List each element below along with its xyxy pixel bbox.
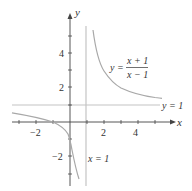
y-axis-arrow-icon (68, 13, 73, 19)
x-tick-label-4: 4 (133, 127, 138, 138)
vertical-asymptote-label: x = 1 (87, 153, 109, 164)
function-label-y: y = (109, 62, 124, 73)
rational-function-graph: y x −2 2 4 4 2 −2 y = x + 1 x − 1 y = 1 … (0, 0, 192, 191)
y-tick-label-2: 2 (59, 82, 64, 93)
function-label-denominator: x − 1 (126, 69, 148, 80)
x-tick-label-2: 2 (101, 127, 106, 138)
x-tick-label-neg2: −2 (30, 127, 41, 138)
curve-left-branch (12, 113, 79, 179)
y-axis-label: y (74, 6, 80, 18)
horizontal-asymptote-label: y = 1 (161, 100, 183, 111)
y-tick-label-4: 4 (59, 48, 64, 59)
function-label-numerator: x + 1 (126, 55, 148, 66)
y-tick-label-neg2: −2 (52, 151, 63, 162)
x-axis-label: x (176, 116, 182, 128)
x-axis-arrow-icon (170, 120, 176, 125)
